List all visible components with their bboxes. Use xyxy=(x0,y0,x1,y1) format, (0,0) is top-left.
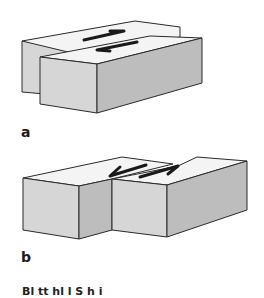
panel-label-a: a xyxy=(21,124,30,140)
panel-label-b: b xyxy=(21,249,31,265)
figure-caption: Bl tt hl l S h i xyxy=(22,285,103,298)
